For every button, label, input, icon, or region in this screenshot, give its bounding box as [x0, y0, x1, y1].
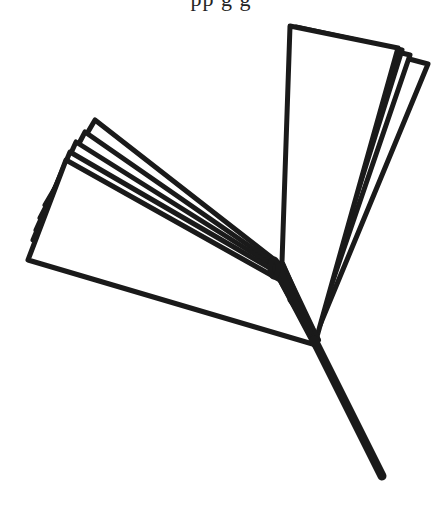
- right-fan-bundle: [282, 26, 428, 340]
- fan-drawing: [0, 0, 442, 511]
- stem: [314, 340, 382, 476]
- left-fan-bundle: [28, 120, 316, 345]
